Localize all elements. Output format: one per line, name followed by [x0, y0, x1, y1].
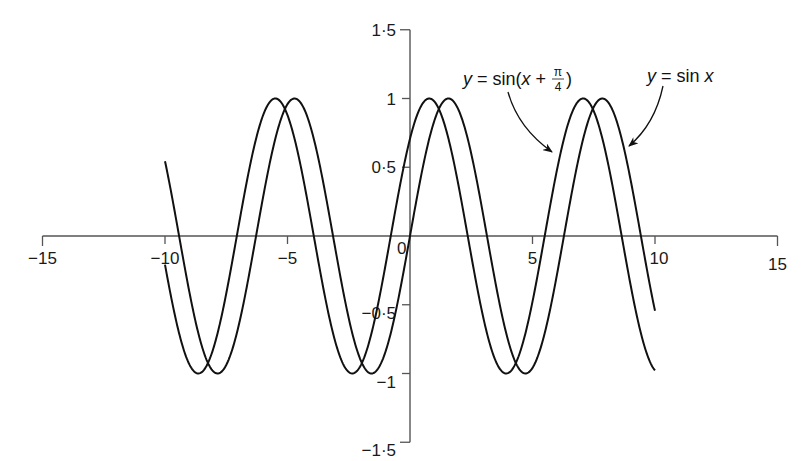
fraction-denominator: 4 [555, 80, 562, 94]
y-tick-label: −1 [377, 373, 396, 392]
y-tick-label: 1 [387, 90, 396, 109]
arrow-to-base-curve-icon [629, 86, 663, 146]
y-tick-label: 1·5 [371, 21, 396, 40]
x-tick-label: −15 [28, 249, 57, 268]
annotation-shifted: y = sin(x + π 4 ) [461, 65, 572, 152]
annotation-base: y = sin x [629, 66, 715, 146]
fraction-numerator: π [554, 65, 562, 79]
annotation-label-base: y = sin x [645, 66, 715, 86]
x-tick-label: 0 [397, 239, 406, 258]
annotation-label-shifted: y = sin(x + [461, 69, 546, 89]
annotation-label-close-paren: ) [566, 69, 572, 89]
x-tick-label: 10 [650, 249, 669, 268]
arrow-to-shifted-curve-icon [508, 92, 552, 152]
y-tick-label: 0·5 [371, 158, 396, 177]
x-tick-label: 15 [768, 255, 787, 274]
y-tick-label: −1·5 [362, 441, 397, 460]
x-tick-label: −5 [278, 249, 297, 268]
sine-phase-shift-chart: −15−10−5051015 1·510·5−0·5−1−1·5 y = sin… [0, 0, 806, 461]
y-tick-label: −0·5 [362, 304, 397, 323]
x-tick-label: 5 [528, 249, 537, 268]
